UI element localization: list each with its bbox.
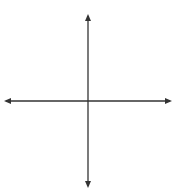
x-axis-left-arrow-icon	[4, 98, 11, 104]
x-axis-right-arrow-icon	[165, 98, 172, 104]
y-axis-down-arrow-icon	[85, 181, 91, 188]
coordinate-plane	[0, 0, 175, 194]
y-axis-up-arrow-icon	[85, 14, 91, 21]
